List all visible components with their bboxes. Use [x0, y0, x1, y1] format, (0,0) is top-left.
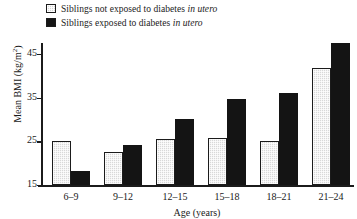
- bar-group: [156, 43, 194, 185]
- legend-swatch-light-icon: [46, 4, 56, 13]
- bar-exposed: [227, 99, 246, 185]
- legend-item-not-exposed: Siblings not exposed to diabetes in uter…: [46, 2, 306, 15]
- bar-group: [52, 43, 90, 185]
- chart-legend: Siblings not exposed to diabetes in uter…: [46, 2, 306, 30]
- legend-swatch-dark-icon: [46, 18, 56, 27]
- x-tick-label: 21–24: [319, 191, 344, 202]
- x-tick-label: 12–15: [163, 191, 188, 202]
- y-tick-label: 15: [27, 178, 37, 189]
- y-tick-label: 25: [27, 134, 37, 145]
- bar-exposed: [123, 145, 142, 185]
- bar-not-exposed: [312, 68, 331, 185]
- bar-group: [208, 43, 246, 185]
- bar-not-exposed: [156, 139, 175, 185]
- legend-label-exposed: Siblings exposed to diabetes in utero: [61, 18, 203, 28]
- x-tick-label: 6–9: [64, 191, 79, 202]
- y-tick-label: 45: [27, 47, 37, 58]
- bar-group: [260, 43, 298, 185]
- bar-not-exposed: [260, 141, 279, 185]
- y-tick-mark: [37, 185, 42, 186]
- bar-not-exposed: [104, 152, 123, 185]
- bar-chart-figure: Siblings not exposed to diabetes in uter…: [0, 0, 357, 219]
- bar-exposed: [279, 93, 298, 185]
- bar-group: [312, 43, 350, 185]
- x-axis-title: Age (years): [41, 207, 353, 218]
- bar-not-exposed: [52, 141, 71, 185]
- x-tick-label: 9–12: [113, 191, 133, 202]
- legend-label-not-exposed: Siblings not exposed to diabetes in uter…: [61, 4, 217, 14]
- x-tick-label: 15–18: [215, 191, 240, 202]
- bar-exposed: [71, 171, 90, 185]
- bar-series-container: [41, 43, 353, 185]
- y-axis-title: Mean BMI (kg/m2): [11, 19, 23, 149]
- plot-area: 15253545 6–99–1212–1515–1818–2121–24 Age…: [41, 43, 353, 185]
- legend-item-exposed: Siblings exposed to diabetes in utero: [46, 16, 306, 29]
- x-axis-line: [38, 185, 354, 187]
- bar-not-exposed: [208, 138, 227, 185]
- y-tick-label: 35: [27, 91, 37, 102]
- bar-group: [104, 43, 142, 185]
- x-tick-label: 18–21: [267, 191, 292, 202]
- bar-exposed: [175, 119, 194, 185]
- bar-exposed: [331, 43, 350, 185]
